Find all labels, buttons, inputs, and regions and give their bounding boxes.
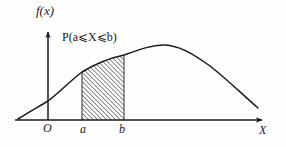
- density-curve: [18, 45, 258, 119]
- probability-density-figure: f(x) P(a⩽X⩽b) O a b X: [0, 0, 286, 147]
- y-axis-label: f(x): [36, 4, 54, 17]
- probability-annotation: P(a⩽X⩽b): [62, 31, 117, 43]
- origin-label: O: [43, 122, 52, 134]
- x-axis-label: X: [259, 124, 266, 136]
- lower-bound-label: a: [80, 123, 86, 135]
- upper-bound-label: b: [119, 123, 125, 135]
